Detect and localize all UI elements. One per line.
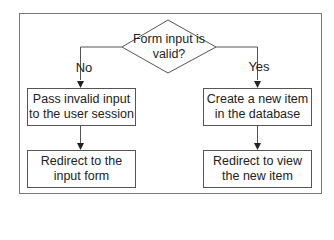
redirect-input-form-text: Redirect to the input form [41, 154, 122, 184]
pass-invalid-input-box: Pass invalid input to the user session [27, 88, 136, 126]
yes-branch-label: Yes [245, 59, 273, 74]
decision-text: Form input is valid? [130, 32, 208, 62]
yes-branch-arrowhead [254, 81, 261, 88]
redirect-view-item-text: Redirect to view the new item [213, 154, 302, 184]
no-branch-arrowhead [77, 81, 84, 88]
right-step-arrowhead [254, 143, 261, 150]
no-branch-label: No [72, 60, 96, 75]
pass-invalid-input-text: Pass invalid input to the user session [29, 92, 134, 122]
create-item-text: Create a new item in the database [207, 92, 308, 122]
left-step-arrowhead [77, 143, 84, 150]
redirect-view-item-box: Redirect to view the new item [203, 150, 312, 188]
redirect-input-form-box: Redirect to the input form [27, 150, 136, 188]
create-item-box: Create a new item in the database [203, 88, 312, 126]
